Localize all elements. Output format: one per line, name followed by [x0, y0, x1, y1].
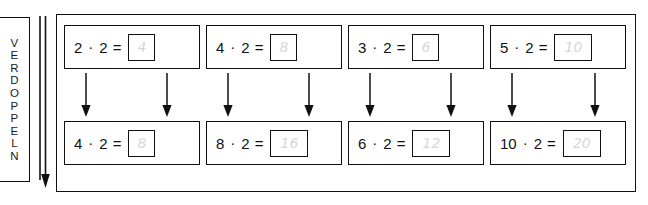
equals-icon: = [113, 39, 122, 56]
answer-value: 16 [281, 135, 299, 151]
equation-row-bottom: 4 · 2 = 8 [64, 121, 200, 165]
multiply-icon: · [88, 134, 93, 151]
verdoppeln-letter: D [10, 74, 19, 87]
answer-value: 8 [137, 135, 146, 151]
multiply-icon: · [372, 134, 377, 151]
answer-value: 20 [573, 135, 591, 151]
left-factor: 5 [500, 39, 508, 56]
doubling-arrows [490, 69, 626, 121]
verdoppeln-label-box: V E R D O P P E L N [0, 17, 30, 182]
right-factor: 2 [525, 39, 533, 56]
doubling-group: 2 · 2 = 4 4 · 2 [64, 25, 200, 181]
left-factor: 2 [74, 39, 82, 56]
right-factor: 2 [534, 135, 542, 152]
equals-icon: = [397, 135, 406, 152]
exercise-panel: 2 · 2 = 4 4 · 2 [56, 14, 636, 192]
answer-value: 8 [279, 39, 288, 55]
left-factor: 3 [358, 39, 366, 56]
answer-input-box[interactable]: 6 [412, 34, 439, 61]
multiply-icon: · [372, 38, 377, 55]
equals-icon: = [255, 39, 264, 56]
verdoppeln-letter: R [10, 62, 19, 75]
equals-icon: = [547, 135, 556, 152]
equation-row-top: 5 · 2 = 10 [490, 25, 626, 69]
verdoppeln-letter: E [11, 49, 19, 62]
multiply-icon: · [88, 38, 93, 55]
right-factor: 2 [383, 135, 391, 152]
equals-icon: = [539, 39, 548, 56]
answer-input-box[interactable]: 10 [554, 34, 592, 61]
answer-value: 4 [137, 39, 146, 55]
doubling-group: 4 · 2 = 8 8 · 2 [206, 25, 342, 181]
doubling-arrows [206, 69, 342, 121]
right-factor: 2 [99, 39, 107, 56]
answer-input-box[interactable]: 8 [128, 130, 155, 157]
right-factor: 2 [241, 135, 249, 152]
verdoppeln-letter: P [11, 100, 19, 113]
answer-input-box[interactable]: 16 [270, 130, 308, 157]
answer-value: 10 [565, 39, 583, 55]
multiply-icon: · [230, 134, 235, 151]
answer-input-box[interactable]: 8 [270, 34, 297, 61]
equation-row-top: 3 · 2 = 6 [348, 25, 484, 69]
doubling-arrows [348, 69, 484, 121]
multiply-icon: · [514, 38, 519, 55]
exercise-groups: 2 · 2 = 4 4 · 2 [64, 25, 626, 181]
answer-input-box[interactable]: 20 [563, 130, 601, 157]
left-factor: 4 [74, 135, 82, 152]
equation-row-bottom: 8 · 2 = 16 [206, 121, 342, 165]
worksheet-page: V E R D O P P E L N 2 · 2 = [0, 0, 648, 205]
answer-input-box[interactable]: 12 [412, 130, 450, 157]
equation-row-bottom: 10 · 2 = 20 [490, 121, 626, 165]
verdoppeln-label-letters: V E R D O P P E L N [0, 18, 29, 181]
right-factor: 2 [99, 135, 107, 152]
left-factor: 8 [216, 135, 224, 152]
verdoppeln-letter: L [11, 137, 18, 150]
equals-icon: = [397, 39, 406, 56]
verdoppeln-letter: N [10, 150, 19, 163]
answer-value: 12 [423, 135, 441, 151]
answer-value: 6 [421, 39, 430, 55]
doubling-group: 3 · 2 = 6 6 · 2 [348, 25, 484, 181]
right-factor: 2 [383, 39, 391, 56]
multiply-icon: · [230, 38, 235, 55]
doubling-arrows [64, 69, 200, 121]
equals-icon: = [113, 135, 122, 152]
doubling-group: 5 · 2 = 10 10 · 2 [490, 25, 626, 181]
verdoppeln-letter: O [10, 87, 19, 100]
verdoppeln-letter: P [11, 112, 19, 125]
equation-row-top: 2 · 2 = 4 [64, 25, 200, 69]
left-factor: 10 [500, 135, 517, 152]
answer-input-box[interactable]: 4 [128, 34, 155, 61]
verdoppeln-letter: E [11, 125, 19, 138]
equals-icon: = [255, 135, 264, 152]
right-factor: 2 [241, 39, 249, 56]
verdoppeln-letter: V [11, 37, 19, 50]
down-arrow-icon [36, 16, 54, 190]
multiply-icon: · [523, 134, 528, 151]
equation-row-bottom: 6 · 2 = 12 [348, 121, 484, 165]
left-factor: 4 [216, 39, 224, 56]
left-factor: 6 [358, 135, 366, 152]
equation-row-top: 4 · 2 = 8 [206, 25, 342, 69]
